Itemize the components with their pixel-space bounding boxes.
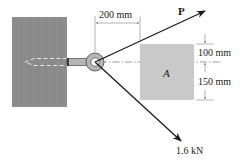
wall (12, 17, 67, 107)
force-p-label: P (178, 6, 185, 17)
dimension-200 (95, 16, 140, 52)
eye-bolt-shank (67, 59, 88, 66)
dimension-150-label: 150 mm (198, 77, 231, 87)
force-known-label: 1.6 kN (176, 146, 203, 156)
dimension-100-label: 100 mm (198, 48, 231, 58)
dimension-200-label: 200 mm (99, 10, 132, 20)
block-a-label: A (163, 68, 170, 79)
dimension-vertical (196, 34, 214, 100)
